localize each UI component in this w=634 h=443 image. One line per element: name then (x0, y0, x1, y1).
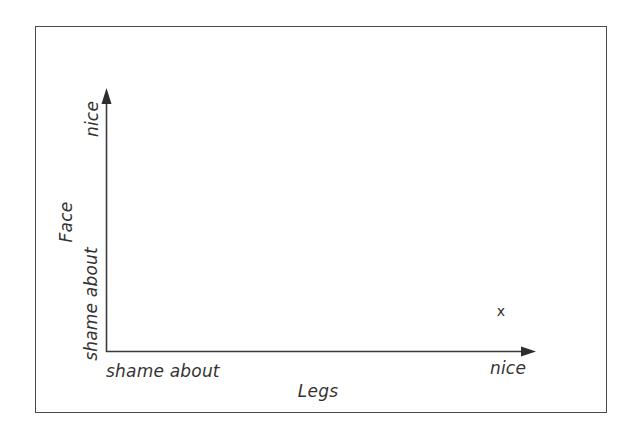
y-axis-title: Face (56, 202, 76, 243)
x-axis-tick-shame-about: shame about (106, 361, 220, 381)
chart-canvas: Face nice shame about shame about Legs n… (0, 0, 634, 443)
x-axis-arrow-icon (521, 347, 536, 357)
y-axis-tick-shame-about: shame about (81, 247, 101, 361)
x-axis-tick-nice: nice (490, 358, 526, 378)
data-point-marker: x (497, 303, 505, 319)
y-axis-tick-nice: nice (82, 101, 102, 137)
y-axis-arrow-icon (102, 88, 112, 104)
axes (0, 0, 634, 443)
x-axis-title: Legs (298, 381, 338, 401)
